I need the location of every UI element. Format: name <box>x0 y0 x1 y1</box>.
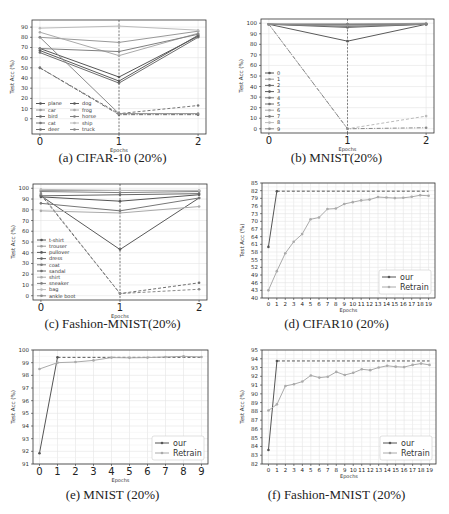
chart-panel-f: 8283848586878889909192939495012345678910… <box>0 0 449 514</box>
caption-d: (d) CIFAR10 (20%) <box>224 316 449 332</box>
x-axis: 012345678910111213141516171819 <box>267 464 434 473</box>
x-axis-label: Epochs <box>340 473 358 480</box>
svg-text:3: 3 <box>292 467 296 473</box>
svg-text:85: 85 <box>251 435 258 441</box>
svg-text:11: 11 <box>358 467 365 473</box>
caption-e: (e) MNIST (20%) <box>0 487 225 503</box>
caption-b: (b) MNIST(20%) <box>224 150 449 166</box>
legend: ourRetrain <box>380 436 432 460</box>
svg-text:17: 17 <box>409 467 416 473</box>
svg-text:14: 14 <box>384 467 391 473</box>
svg-text:19: 19 <box>426 467 433 473</box>
svg-text:16: 16 <box>401 467 408 473</box>
svg-text:2: 2 <box>284 467 288 473</box>
caption-f: (f) Fashion-MNIST (20%) <box>224 487 449 503</box>
svg-text:94: 94 <box>251 356 258 362</box>
svg-text:88: 88 <box>251 408 258 414</box>
svg-text:15: 15 <box>392 467 399 473</box>
svg-text:12: 12 <box>367 467 374 473</box>
svg-text:0: 0 <box>267 467 271 473</box>
svg-text:5: 5 <box>309 467 313 473</box>
svg-text:7: 7 <box>326 467 330 473</box>
svg-text:86: 86 <box>251 426 258 432</box>
svg-text:Retrain: Retrain <box>401 449 430 458</box>
chart-f: 8283848586878889909192939495012345678910… <box>0 0 449 514</box>
svg-text:13: 13 <box>375 467 382 473</box>
y-axis-label: Test Acc (%) <box>239 390 245 425</box>
svg-text:6: 6 <box>318 467 322 473</box>
series-Retrain <box>268 364 429 411</box>
svg-text:90: 90 <box>251 391 258 397</box>
svg-text:18: 18 <box>418 467 425 473</box>
svg-text:83: 83 <box>251 452 258 458</box>
svg-text:8: 8 <box>335 467 339 473</box>
svg-text:91: 91 <box>251 382 258 388</box>
svg-text:89: 89 <box>251 400 258 406</box>
svg-text:our: our <box>401 439 415 448</box>
svg-text:95: 95 <box>251 347 258 353</box>
svg-text:84: 84 <box>251 443 258 449</box>
caption-a: (a) CIFAR-10 (20%) <box>0 150 225 166</box>
svg-text:87: 87 <box>251 417 258 423</box>
caption-c: (c) Fashion-MNIST(20%) <box>0 316 225 332</box>
svg-text:92: 92 <box>251 373 258 379</box>
y-axis: 8283848586878889909192939495 <box>251 347 262 467</box>
svg-text:1: 1 <box>275 467 279 473</box>
svg-text:4: 4 <box>301 467 305 473</box>
svg-text:82: 82 <box>251 461 258 467</box>
svg-text:93: 93 <box>251 365 258 371</box>
